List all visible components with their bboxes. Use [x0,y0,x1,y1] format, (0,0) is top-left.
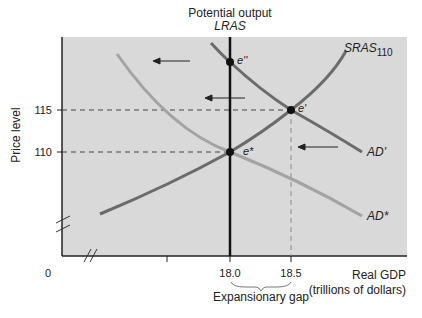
point-e-double-prime [226,58,234,66]
point-e-prime [287,106,295,114]
expansionary-gap-label: Expansionary gap [213,290,309,304]
e-double-prime-label: e'' [237,54,248,66]
lras-label: LRAS [214,19,245,33]
x-tick-label-18-0: 18.0 [219,267,240,279]
origin-label: 0 [45,267,51,279]
y-tick-label-110: 110 [34,146,52,158]
potential-output-label: Potential output [188,6,272,20]
e-prime-label: e' [298,102,307,114]
x-tick-label-18-5: 18.5 [280,267,301,279]
x-axis-title-line1: Real GDP [352,268,406,282]
ad-star-label: AD* [366,209,389,223]
y-axis-title: Price level [9,107,23,162]
y-tick-label-115: 115 [34,104,52,116]
e-star-label: e* [243,145,254,157]
ad-as-diagram: Potential output LRAS SRAS110 AD' AD* e'… [0,0,422,318]
ad-prime-label: AD' [366,145,387,159]
x-axis-title-line2: (trillions of dollars) [309,283,406,297]
point-e-star [226,148,234,156]
